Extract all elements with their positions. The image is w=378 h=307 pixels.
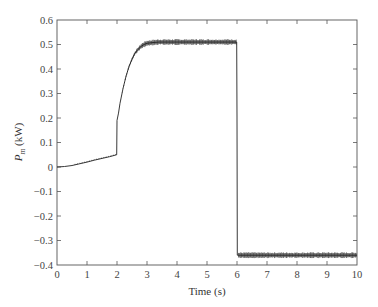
y-tick-label: 0.6	[40, 15, 53, 26]
series-line-pm	[57, 42, 357, 255]
y-tick-label: 0.1	[40, 137, 53, 148]
y-tick-label: 0.5	[40, 39, 53, 50]
x-tick-label: 7	[264, 269, 269, 280]
x-tick-label: 6	[234, 269, 239, 280]
x-tick-label: 8	[294, 269, 299, 280]
axes-frame	[57, 20, 357, 265]
x-axis-label: Time (s)	[188, 285, 226, 298]
y-axis-label: Pm (kW)	[12, 122, 27, 162]
x-tick-label: 2	[114, 269, 119, 280]
x-tick-label: 3	[144, 269, 149, 280]
y-tick-label: −0.2	[34, 211, 53, 222]
y-axis-label-unit: (kW)	[12, 122, 25, 148]
x-tick-label: 1	[84, 269, 89, 280]
chart: 012345678910 0.60.50.40.30.20.10−0.1−0.2…	[0, 0, 378, 307]
x-tick-label: 9	[324, 269, 329, 280]
plot-area: 012345678910 0.60.50.40.30.20.10−0.1−0.2…	[34, 15, 362, 281]
x-tick-label: 10	[352, 269, 363, 280]
y-axis-ticks: 0.60.50.40.30.20.10−0.1−0.2−0.3−0.4	[34, 15, 357, 271]
x-axis-ticks: 012345678910	[54, 20, 362, 280]
x-tick-label: 5	[204, 269, 209, 280]
x-tick-label: 0	[54, 269, 59, 280]
y-tick-label: −0.4	[34, 260, 54, 271]
x-tick-label: 4	[174, 269, 180, 280]
y-tick-label: 0.2	[40, 113, 53, 124]
y-tick-label: 0	[48, 162, 53, 173]
y-tick-label: 0.3	[40, 88, 53, 99]
y-tick-label: −0.1	[34, 186, 53, 197]
y-tick-label: 0.4	[40, 64, 54, 75]
y-tick-label: −0.3	[34, 235, 53, 246]
